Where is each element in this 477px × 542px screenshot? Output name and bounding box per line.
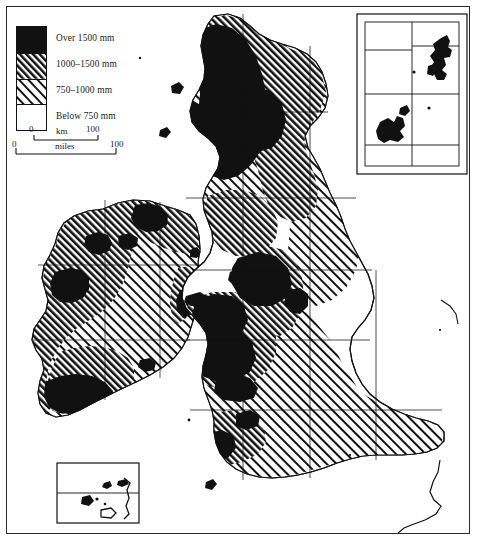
island-small-3 xyxy=(159,127,171,138)
scale-km-left-label: 0 xyxy=(29,124,34,134)
legend-swatch-over-1500 xyxy=(17,27,46,53)
scale-bars: 0 km 100 0 miles 100 xyxy=(12,128,132,158)
legend-label-over-1500: Over 1500 mm xyxy=(56,33,115,43)
continental-coast xyxy=(398,460,441,533)
channel-island-sark xyxy=(95,497,98,500)
legend-swatch-750-1000 xyxy=(17,79,46,105)
scale-km-unit-label: km xyxy=(56,126,68,136)
legend-swatch-column xyxy=(16,26,47,131)
shetland-orkney-inset xyxy=(357,14,467,174)
channel-island-herm xyxy=(104,503,107,506)
legend-label-below-750: Below 750 mm xyxy=(56,111,116,121)
legend-swatch-1000-1500 xyxy=(17,53,46,79)
scale-miles-right-label: 100 xyxy=(110,139,124,149)
britain-zone-over-1500-cornwall xyxy=(180,448,202,468)
island-small-2 xyxy=(171,82,184,94)
ireland-zone-over-1500-connemara xyxy=(50,268,89,303)
fair-isle xyxy=(412,70,415,73)
north-sea-coast-dutch xyxy=(441,300,458,324)
channel-islands-inset xyxy=(57,463,139,523)
legend-divider-1 xyxy=(17,53,46,54)
rainfall-map: Over 1500 mm 1000–1500 mm 750–1000 mm Be… xyxy=(0,0,477,542)
legend-label-column: Over 1500 mm 1000–1500 mm 750–1000 mm Be… xyxy=(56,26,148,131)
legend-label-1000-1500: 1000–1500 mm xyxy=(56,59,117,69)
legend-divider-2 xyxy=(17,79,46,80)
britain-zone-over-1500-hebrides xyxy=(154,30,188,64)
britain-zone-over-1500-mull xyxy=(172,146,200,172)
inset-dot-south xyxy=(427,106,430,109)
legend-divider-3 xyxy=(17,104,46,105)
scale-miles-left-label: 0 xyxy=(12,139,17,149)
rainfall-legend: Over 1500 mm 1000–1500 mm 750–1000 mm Be… xyxy=(16,26,144,134)
scale-miles-unit-label: miles xyxy=(55,141,75,151)
scale-km-right-label: 100 xyxy=(86,124,100,134)
island-small-4 xyxy=(205,479,217,490)
legend-label-750-1000: 750–1000 mm xyxy=(56,85,112,95)
